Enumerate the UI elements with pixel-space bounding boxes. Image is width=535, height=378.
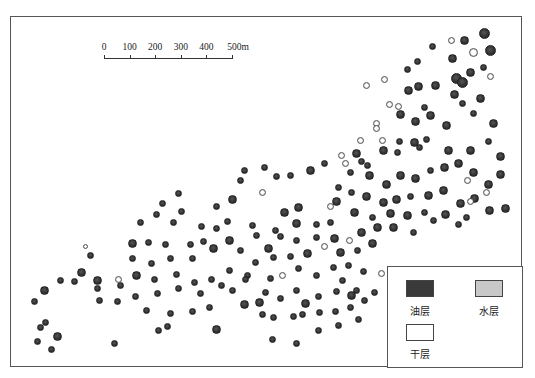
scale-tick	[206, 55, 207, 59]
well-marker-oil	[241, 167, 248, 174]
well-marker-oil	[353, 287, 360, 294]
well-marker-oil	[427, 167, 434, 174]
well-marker-oil	[242, 276, 249, 283]
well-marker-dry	[342, 160, 349, 167]
well-marker-oil	[444, 146, 453, 155]
well-marker-oil	[321, 160, 328, 167]
well-marker-dry	[464, 177, 471, 184]
well-marker-oil	[501, 204, 510, 213]
well-marker-oil	[330, 234, 339, 243]
well-marker-oil	[347, 169, 354, 176]
well-marker-oil	[42, 319, 49, 326]
well-marker-oil	[442, 121, 451, 130]
scale-tick	[232, 55, 233, 59]
well-marker-oil	[355, 316, 362, 323]
well-marker-oil	[421, 209, 428, 216]
well-marker-oil	[410, 229, 417, 236]
well-marker-oil	[295, 265, 302, 272]
well-marker-oil	[368, 239, 377, 248]
well-marker-oil	[364, 162, 371, 169]
well-marker-oil	[226, 267, 233, 274]
well-marker-oil	[132, 293, 139, 300]
well-marker-oil	[237, 177, 244, 184]
well-marker-oil	[332, 308, 339, 315]
well-marker-dry	[363, 82, 370, 89]
well-marker-oil	[369, 214, 376, 221]
well-marker-oil	[496, 152, 505, 161]
well-marker-oil	[389, 223, 398, 232]
well-marker-dry	[448, 37, 455, 44]
well-marker-oil	[466, 68, 475, 77]
well-marker-oil	[155, 327, 162, 334]
well-marker-oil	[191, 279, 198, 286]
well-marker-oil	[496, 170, 505, 179]
well-marker-dry	[395, 103, 402, 110]
well-marker-oil	[459, 100, 466, 107]
well-marker-oil	[456, 199, 465, 208]
well-marker-oil	[429, 43, 436, 50]
well-marker-oil	[476, 94, 485, 103]
well-marker-oil	[189, 308, 196, 315]
well-marker-oil	[303, 249, 312, 258]
well-marker-oil	[267, 275, 274, 282]
well-marker-oil	[357, 228, 366, 237]
well-marker-oil	[403, 211, 412, 220]
well-marker-oil	[371, 289, 378, 296]
well-marker-oil	[237, 247, 244, 254]
well-marker-oil	[469, 168, 478, 177]
well-marker-oil	[345, 262, 352, 269]
well-marker-oil	[208, 276, 215, 283]
scale-label-500m: 500m	[227, 42, 249, 52]
well-marker-oil	[270, 314, 277, 321]
well-marker-oil	[94, 285, 101, 292]
well-marker-oil	[162, 241, 169, 248]
well-marker-oil	[206, 304, 213, 311]
well-marker-dry	[378, 270, 385, 277]
well-marker-oil	[148, 260, 155, 267]
well-marker-oil	[213, 203, 220, 210]
well-marker-oil	[187, 241, 194, 248]
well-marker-oil	[255, 298, 264, 307]
well-marker-oil	[137, 219, 144, 226]
well-marker-oil	[411, 117, 420, 126]
well-marker-oil	[421, 104, 428, 111]
well-marker-oil	[379, 146, 388, 155]
well-marker-dry	[259, 189, 266, 196]
well-marker-dry	[338, 152, 345, 159]
well-marker-oil	[57, 277, 64, 284]
well-marker-dry	[379, 137, 386, 144]
well-marker-oil	[272, 227, 279, 234]
well-marker-oil	[71, 278, 78, 285]
well-marker-oil	[159, 200, 166, 207]
well-marker-oil	[209, 244, 218, 253]
well-marker-oil	[350, 208, 359, 217]
well-marker-oil	[315, 293, 322, 300]
well-marker-oil	[277, 233, 284, 240]
well-marker-oil	[306, 166, 315, 175]
well-marker-oil	[225, 236, 234, 245]
scale-tick	[104, 55, 105, 59]
well-marker-oil	[454, 159, 463, 168]
well-marker-dry	[321, 243, 328, 250]
well-marker-oil	[362, 192, 371, 201]
well-marker-oil	[411, 174, 420, 183]
well-marker-oil	[293, 237, 300, 244]
scale-tick	[155, 55, 156, 59]
well-marker-oil	[145, 239, 152, 246]
well-marker-dry	[386, 101, 393, 108]
well-marker-oil	[416, 144, 423, 151]
well-marker-oil	[313, 272, 320, 279]
well-marker-oil	[485, 206, 494, 215]
well-marker-oil	[269, 336, 276, 343]
well-marker-oil	[229, 287, 236, 294]
well-marker-oil	[259, 311, 266, 318]
well-marker-oil	[111, 340, 118, 347]
well-marker-oil	[197, 290, 204, 297]
well-marker-oil	[466, 146, 475, 155]
well-marker-oil	[480, 64, 487, 71]
well-marker-oil	[153, 211, 160, 218]
well-marker-oil	[373, 223, 382, 232]
well-marker-dry	[346, 237, 353, 244]
well-marker-oil	[379, 198, 388, 207]
well-marker-oil	[489, 119, 498, 128]
